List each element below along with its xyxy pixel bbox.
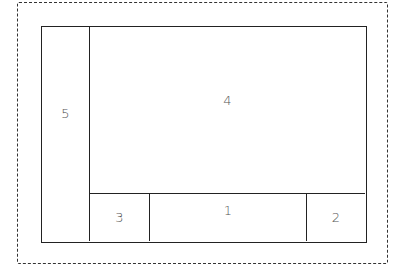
region-3-label: 3 <box>115 210 123 225</box>
region-3: 3 <box>90 194 150 241</box>
region-2: 2 <box>307 194 365 241</box>
region-4: 4 <box>90 27 365 194</box>
region-4-label: 4 <box>223 93 231 108</box>
region-1: 1 <box>150 194 307 241</box>
region-5: 5 <box>42 27 90 241</box>
region-5-label: 5 <box>61 106 69 121</box>
region-2-label: 2 <box>332 210 340 225</box>
layout-frame: 5 4 3 1 2 <box>41 26 367 243</box>
region-1-label: 1 <box>224 203 232 218</box>
